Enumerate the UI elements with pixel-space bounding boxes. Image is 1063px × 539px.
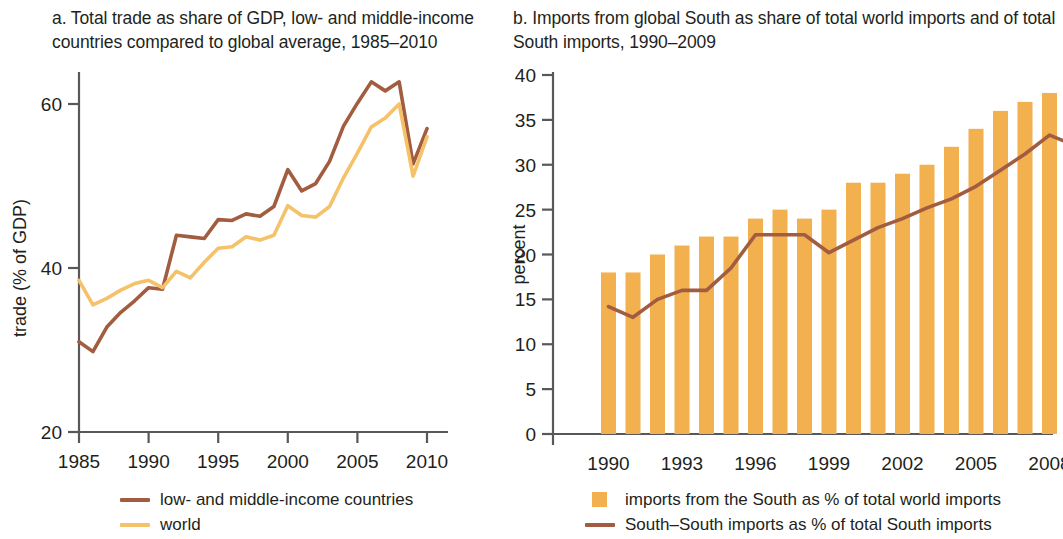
y-tick-label-b: 10 (515, 334, 536, 355)
x-tick-label-a: 1995 (197, 451, 239, 472)
panel-a-plot: 204060198519901995200020052010trade (% o… (0, 0, 505, 539)
figure-root: a. Total trade as share of GDP, low- and… (0, 0, 1063, 539)
legend-label-lmic: low- and middle-income countries (160, 487, 413, 512)
x-tick-label-b: 1990 (587, 453, 629, 474)
panel-b-plot: 0510152025303540199019931996199920022005… (505, 0, 1063, 539)
legend-line-swatch-lmic (120, 498, 150, 502)
x-tick-label-a: 1985 (58, 451, 100, 472)
panel-a-svg: 204060198519901995200020052010trade (% o… (0, 0, 505, 480)
x-tick-label-b: 1993 (661, 453, 703, 474)
y-tick-label-b: 25 (515, 200, 536, 221)
legend-item: imports from the South as % of total wor… (585, 487, 1001, 512)
bar (675, 246, 690, 434)
x-tick-label-b: 1996 (734, 453, 776, 474)
bar (650, 255, 665, 435)
legend-item: South–South imports as % of total South … (585, 512, 1001, 537)
legend-item: low- and middle-income countries (120, 487, 413, 512)
panel-b-legend: imports from the South as % of total wor… (585, 487, 1001, 537)
bar (822, 210, 837, 434)
y-tick-label-a: 60 (41, 94, 62, 115)
bar (871, 183, 886, 434)
series-line-lmic (79, 82, 427, 352)
y-tick-label-b: 15 (515, 289, 536, 310)
x-tick-label-b: 1999 (808, 453, 850, 474)
x-tick-label-b: 2008 (1028, 453, 1063, 474)
bar (601, 272, 616, 434)
y-tick-label-b: 5 (525, 379, 536, 400)
x-tick-label-a: 2000 (267, 451, 309, 472)
y-tick-label-a: 20 (41, 422, 62, 443)
bar (969, 129, 984, 434)
x-tick-label-a: 2005 (336, 451, 378, 472)
x-tick-label-a: 2010 (406, 451, 448, 472)
legend-line-swatch-south-south (585, 523, 615, 527)
x-tick-label-a: 1990 (127, 451, 169, 472)
y-tick-label-b: 40 (515, 65, 536, 86)
legend-line-swatch-world (120, 523, 150, 527)
legend-label-south-south: South–South imports as % of total South … (625, 512, 992, 537)
legend-box-swatch-imports (592, 492, 607, 507)
x-tick-label-b: 2005 (955, 453, 997, 474)
y-tick-label-b: 0 (525, 424, 536, 445)
bar (846, 183, 861, 434)
y-tick-label-a: 40 (41, 258, 62, 279)
bar (748, 219, 763, 434)
series-line-world (79, 104, 427, 305)
y-axis-title-b: percent (509, 224, 529, 284)
y-tick-label-b: 30 (515, 155, 536, 176)
bar (1042, 93, 1057, 434)
bar (944, 147, 959, 434)
panel-a-legend: low- and middle-income countries world (120, 487, 413, 537)
bar (993, 111, 1008, 434)
bar (699, 237, 714, 434)
panel-b: b. Imports from global South as share of… (505, 0, 1063, 539)
x-tick-label-b: 2002 (881, 453, 923, 474)
y-axis-title-a: trade (% of GDP) (10, 199, 30, 337)
panel-b-svg: 0510152025303540199019931996199920022005… (505, 0, 1063, 480)
legend-label-world: world (160, 512, 201, 537)
legend-item: world (120, 512, 413, 537)
bar (626, 272, 641, 434)
bar (895, 174, 910, 434)
legend-label-imports-world: imports from the South as % of total wor… (625, 487, 1001, 512)
panel-a: a. Total trade as share of GDP, low- and… (0, 0, 505, 539)
bar (797, 219, 812, 434)
bar (773, 210, 788, 434)
y-tick-label-b: 35 (515, 110, 536, 131)
